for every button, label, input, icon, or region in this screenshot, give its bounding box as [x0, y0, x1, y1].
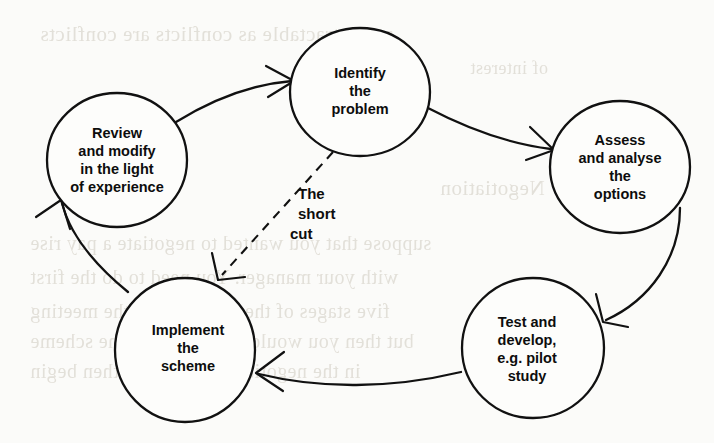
node-test-label-2: develop, [498, 332, 557, 348]
node-review-label-1: Review [92, 125, 143, 141]
node-test[interactable]: Test and develop, e.g. pilot study [462, 278, 604, 418]
node-review-label-2: and modify [78, 143, 155, 159]
node-test-label-4: study [508, 368, 547, 384]
node-test-label-1: Test and [498, 314, 557, 330]
node-review[interactable]: Review and modify in the light of experi… [47, 93, 187, 227]
edge-test-to-implement [256, 352, 461, 391]
node-review-label-4: of experience [70, 179, 164, 195]
shortcut-arrowhead [212, 253, 245, 280]
edge-test-to-implement-arrowhead [256, 352, 284, 391]
edge-review-to-identify [176, 66, 294, 122]
edge-identify-to-assess-arrowhead [526, 127, 554, 160]
node-identify-label-2: the [349, 83, 371, 99]
node-implement-label-3: scheme [161, 358, 215, 374]
edge-test-to-implement-line [259, 372, 461, 385]
diagram-canvas: and intractable as conflicts are conflic… [0, 0, 714, 443]
node-implement-label-1: Implement [152, 322, 225, 338]
node-implement[interactable]: Implement the scheme [115, 278, 255, 422]
node-assess-circle [550, 101, 690, 233]
edge-identify-to-assess [428, 108, 554, 160]
annotation-short-cut-line-1: The [298, 185, 325, 202]
node-test-circle [462, 278, 604, 418]
node-assess-label-2: and analyse [578, 150, 661, 166]
node-assess-label-1: Assess [595, 132, 646, 148]
node-assess[interactable]: Assess and analyse the options [550, 101, 690, 233]
annotation-short-cut-line-3: cut [290, 225, 313, 242]
node-identify-label-3: problem [331, 101, 388, 117]
node-implement-label-2: the [177, 340, 199, 356]
node-assess-label-4: options [594, 186, 646, 202]
node-assess-label-3: the [609, 168, 631, 184]
annotation-short-cut-line-2: short [298, 205, 336, 222]
node-review-circle [47, 93, 187, 227]
node-identify-label-1: Identify [334, 65, 386, 81]
problem-solving-cycle-svg: Identify the problem Assess and analyse … [0, 0, 714, 443]
edge-review-to-identify-line [176, 81, 292, 122]
node-identify[interactable]: Identify the problem [290, 28, 430, 156]
node-review-label-3: in the light [80, 161, 153, 177]
node-test-label-3: e.g. pilot [497, 350, 557, 366]
